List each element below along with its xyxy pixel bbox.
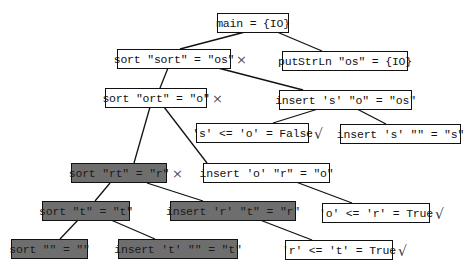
node-label: insert 't' "" = "t" [114, 241, 241, 258]
node-insert-s-o: insert 's' "o" = "os" [279, 90, 412, 110]
cross-mark-icon: × [236, 53, 247, 67]
node-insert-s-empty: insert 's' "" = "s" [340, 124, 461, 144]
cross-mark-icon: × [172, 167, 183, 181]
cross-mark-icon: × [212, 92, 223, 106]
check-mark-icon: √ [398, 244, 407, 258]
node-label: insert 'r' "t" = "r" [166, 203, 300, 220]
node-label: sort "" = "" [9, 241, 89, 258]
node-main: main = {IO} [217, 13, 289, 33]
node-insert-t-empty: insert 't' "" = "t" [118, 239, 238, 259]
edge-sort-ort-sort-rt [134, 107, 150, 163]
edge-insert-o-r-cmp-o-r [296, 182, 352, 203]
edge-main-putstrln [277, 32, 322, 51]
node-insert-r-t: insert 'r' "t" = "r" [170, 201, 296, 221]
node-label: 'o' <= 'r' = True [319, 205, 433, 222]
node-label: sort "sort" = "os" [114, 51, 235, 68]
node-putstrln: putStrLn "os" = {IO} [282, 51, 408, 71]
edge-sort-sort-sort-ort [160, 68, 168, 88]
node-label: putStrLn "os" = {IO} [278, 53, 412, 70]
edge-insert-s-o-cmp-s-o [273, 109, 318, 123]
node-sort-sort: sort "sort" = "os" [117, 49, 231, 69]
edge-sort-sort-insert-s-o [218, 68, 303, 90]
edge-main-sort-sort [180, 32, 245, 49]
node-label: insert 's' "" = "s" [337, 126, 464, 143]
check-mark-icon: √ [435, 207, 444, 221]
node-sort-ort: sort "ort" = "o" [105, 88, 207, 108]
edge-sort-t-sort-empty [60, 220, 78, 239]
node-sort-rt: sort "rt" = "r" [71, 163, 167, 183]
node-label: insert 'o' "r" = "o" [199, 165, 333, 182]
node-cmp-s-o: 's' <= 'o' = False [196, 123, 309, 143]
node-label: sort "ort" = "o" [102, 90, 209, 107]
node-cmp-r-t: 'r' <= 't' = True [285, 240, 393, 260]
node-label: 's' <= 'o' = False [192, 125, 313, 142]
node-label: insert 's' "o" = "os" [275, 92, 416, 109]
node-insert-o-r: insert 'o' "r" = "o" [203, 163, 330, 183]
edge-sort-t-insert-t-empty [111, 220, 155, 239]
edge-insert-s-o-insert-s-empty [357, 109, 386, 124]
node-sort-t: sort "t" = "t" [42, 201, 130, 221]
node-label: sort "rt" = "r" [69, 165, 170, 182]
node-cmp-o-r: 'o' <= 'r' = True [322, 203, 430, 223]
edge-sort-rt-sort-t [95, 183, 110, 201]
edge-sort-rt-insert-r-t [147, 183, 203, 201]
check-mark-icon: √ [314, 127, 323, 141]
edge-insert-r-t-cmp-r-t [260, 220, 312, 240]
node-label: 'r' <= 't' = True [282, 242, 396, 259]
node-label: sort "t" = "t" [39, 203, 133, 220]
evaluation-tree-diagram: main = {IO} sort "sort" = "os" × putStrL… [0, 0, 467, 271]
node-sort-empty: sort "" = "" [11, 239, 88, 259]
node-label: main = {IO} [216, 15, 290, 32]
